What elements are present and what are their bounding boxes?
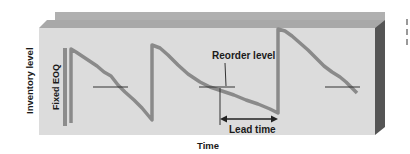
x-axis-label: Time bbox=[197, 140, 219, 151]
edge-mark bbox=[406, 19, 408, 25]
y-axis-label: Inventory level bbox=[24, 47, 35, 114]
reorder-label: Reorder level bbox=[212, 50, 276, 61]
eoq-bar bbox=[63, 48, 67, 126]
front-panel bbox=[39, 28, 375, 135]
inventory-diagram: Reorder level Lead time Time Inventory l… bbox=[0, 0, 410, 154]
front-panel-top bbox=[39, 20, 385, 28]
edge-mark bbox=[406, 39, 408, 45]
front-panel-side bbox=[375, 20, 385, 135]
lead-time-label: Lead time bbox=[229, 124, 276, 135]
eoq-label: Fixed EOQ bbox=[51, 64, 61, 110]
edge-mark bbox=[406, 29, 408, 35]
